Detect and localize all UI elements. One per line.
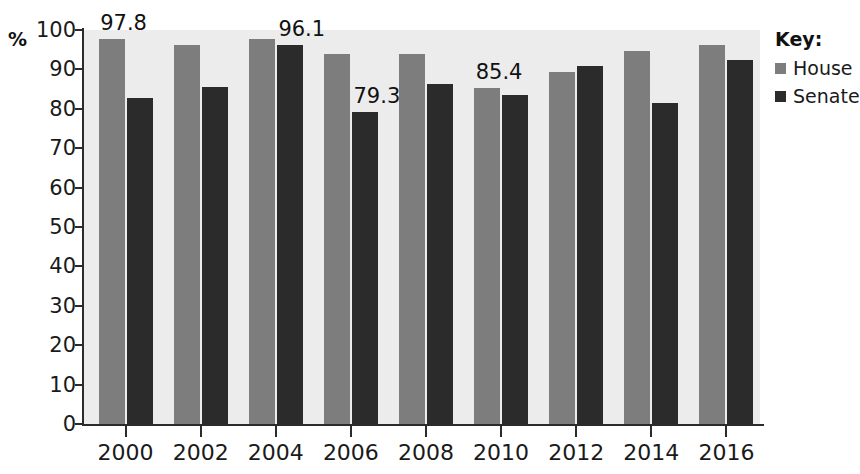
x-axis-tick-mark <box>725 426 727 437</box>
x-axis-tick-mark <box>575 426 577 437</box>
bar-house-2002[interactable] <box>174 45 200 424</box>
legend-swatch-house-icon <box>775 63 786 74</box>
bar-group <box>249 30 303 424</box>
legend-item-house[interactable]: House <box>775 57 859 79</box>
bar-value-label-senate-2006: 79.3 <box>353 84 400 108</box>
y-axis-tick-labels: 0102030405060708090100 <box>24 0 76 474</box>
x-axis-tick-mark <box>275 426 277 437</box>
y-axis-tick-mark <box>75 226 84 228</box>
y-axis-tick-label: 30 <box>30 294 76 318</box>
plot-area <box>84 30 760 424</box>
x-axis-tick-label-2014: 2014 <box>623 440 679 465</box>
bar-group <box>474 30 528 424</box>
x-axis-tick-mark <box>125 426 127 437</box>
y-axis-tick-mark <box>75 187 84 189</box>
y-axis-tick-label: 40 <box>30 254 76 278</box>
bar-senate-2006[interactable] <box>352 112 378 424</box>
x-axis-tick-label-2002: 2002 <box>173 440 229 465</box>
bar-senate-2008[interactable] <box>427 84 453 424</box>
bar-house-2000[interactable] <box>99 39 125 424</box>
x-axis-tick-label-2012: 2012 <box>548 440 604 465</box>
x-axis-tick-label-2004: 2004 <box>248 440 304 465</box>
bar-group <box>174 30 228 424</box>
y-axis-tick-mark <box>75 423 84 425</box>
y-axis-tick-label: 20 <box>30 333 76 357</box>
x-axis-tick-mark <box>425 426 427 437</box>
y-axis-tick-label: 10 <box>30 373 76 397</box>
y-axis-tick-mark <box>75 384 84 386</box>
bar-group <box>549 30 603 424</box>
bar-value-label-house-2010: 85.4 <box>476 60 523 84</box>
x-axis-tick-label-2006: 2006 <box>323 440 379 465</box>
y-axis-tick-label: 80 <box>30 97 76 121</box>
bar-house-2006[interactable] <box>324 54 350 424</box>
y-axis-tick-label: 70 <box>30 136 76 160</box>
bar-house-2012[interactable] <box>549 72 575 424</box>
y-axis-tick-label: 90 <box>30 57 76 81</box>
legend-title: Key: <box>775 28 859 50</box>
y-axis-tick-mark <box>75 108 84 110</box>
bar-group <box>624 30 678 424</box>
bar-senate-2016[interactable] <box>727 60 753 424</box>
legend-items: HouseSenate <box>775 57 859 107</box>
y-axis-tick-mark <box>75 305 84 307</box>
legend-label: Senate <box>793 85 860 107</box>
y-axis-tick-mark <box>75 68 84 70</box>
x-axis-tick-label-2008: 2008 <box>398 440 454 465</box>
x-axis-tick-mark <box>500 426 502 437</box>
bar-senate-2014[interactable] <box>652 103 678 424</box>
x-axis-tick-mark <box>650 426 652 437</box>
bar-house-2004[interactable] <box>249 39 275 424</box>
bar-senate-2002[interactable] <box>202 87 228 424</box>
x-axis-tick-mark <box>350 426 352 437</box>
bar-senate-2010[interactable] <box>502 95 528 424</box>
y-axis-tick-mark <box>75 344 84 346</box>
y-axis-tick-mark <box>75 265 84 267</box>
x-axis-tick-label-2016: 2016 <box>698 440 754 465</box>
x-axis-tick-mark <box>200 426 202 437</box>
y-axis-tick-mark <box>75 29 84 31</box>
bar-senate-2000[interactable] <box>127 98 153 424</box>
y-axis-tick-label: 100 <box>30 18 76 42</box>
y-axis-tick-label: 50 <box>30 215 76 239</box>
bar-house-2014[interactable] <box>624 51 650 425</box>
bar-house-2016[interactable] <box>699 45 725 424</box>
x-axis-line <box>82 424 764 426</box>
legend-item-senate[interactable]: Senate <box>775 85 859 107</box>
bar-group <box>699 30 753 424</box>
bar-house-2008[interactable] <box>399 54 425 424</box>
bar-senate-2004[interactable] <box>277 45 303 424</box>
bar-value-label-house-2000: 97.8 <box>100 11 147 35</box>
bar-house-2010[interactable] <box>474 88 500 424</box>
legend-swatch-senate-icon <box>775 91 786 102</box>
bar-group <box>399 30 453 424</box>
y-axis-tick-mark <box>75 147 84 149</box>
bar-senate-2012[interactable] <box>577 66 603 424</box>
bar-group <box>99 30 153 424</box>
x-axis-tick-label-2010: 2010 <box>473 440 529 465</box>
y-axis-tick-label: 60 <box>30 176 76 200</box>
bar-value-label-senate-2004: 96.1 <box>278 17 325 41</box>
legend: Key: HouseSenate <box>775 28 859 113</box>
y-axis-tick-label: 0 <box>30 412 76 436</box>
legend-label: House <box>793 57 853 79</box>
x-axis-tick-label-2000: 2000 <box>98 440 154 465</box>
